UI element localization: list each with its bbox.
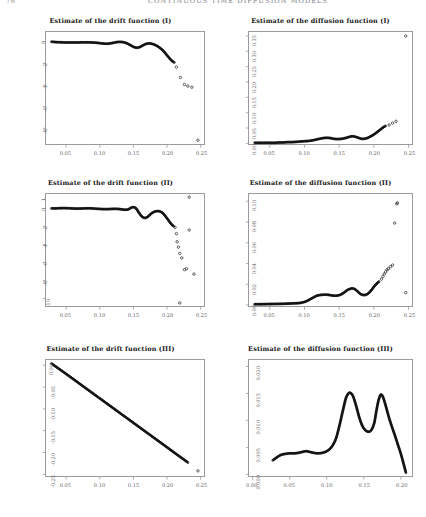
plot-area [45, 31, 205, 145]
outlier-series [197, 470, 199, 472]
y-tick-label: 0 [40, 208, 46, 211]
y-tick-label: 0 [40, 41, 46, 44]
x-tick-label: 0.10 [94, 482, 105, 488]
x-tick-label: 0.05 [60, 482, 71, 488]
panel-title: Estimate of the diffusion function (III) [218, 345, 423, 353]
running-header: 76 CONTINUOUS TIME DIFFUSION MODELS [0, 0, 426, 9]
panel-diffusion-1: Estimate of the diffusion function (I) 0… [218, 17, 423, 175]
y-tick-label: -4 [42, 244, 48, 249]
y-tick-label: 0.00 [251, 144, 257, 155]
y-tick-label: 0.005 [255, 448, 261, 463]
panel-diffusion-2: Estimate of the diffusion function (II) … [218, 179, 423, 337]
x-tick-label: 0.25 [404, 150, 415, 156]
y-tick-label: 0.20 [251, 82, 257, 93]
x-tick-label: 0.20 [369, 312, 380, 318]
panel-drift-1: Estimate of the drift function (I) 0.050… [8, 17, 213, 175]
x-tick-label: 0.15 [334, 150, 345, 156]
y-tick-label: 0.25 [251, 66, 257, 77]
outlier-series [388, 35, 407, 126]
outlier-series [380, 202, 407, 294]
page-folio: 76 [6, 0, 15, 5]
y-tick-label: 0.10 [251, 200, 257, 211]
y-tick-label: 0.08 [251, 221, 257, 232]
x-tick-label: 0.05 [60, 150, 71, 156]
y-tick-label: 0.35 [251, 35, 257, 46]
y-tick-label: 0.000 [255, 475, 261, 490]
plot-area [248, 193, 413, 307]
x-tick-label: 0.20 [162, 312, 173, 318]
y-tick-label: 0.04 [251, 263, 257, 274]
y-tick-label: 0.10 [251, 113, 257, 124]
y-tick-label: -0.15 [50, 431, 56, 444]
panel-title: Estimate of the drift function (I) [8, 17, 213, 25]
x-tick-label: 0.10 [94, 150, 105, 156]
plot-area [248, 359, 413, 477]
panel-drift-2: Estimate of the drift function (II) 0.05… [8, 179, 213, 337]
y-tick-label: -0.25 [50, 475, 56, 488]
y-tick-label: -6 [42, 262, 48, 267]
data-point-series [50, 41, 175, 64]
y-tick-label: 0.00 [251, 305, 257, 316]
panel-title: Estimate of the diffusion function (I) [218, 17, 423, 25]
outlier-series [188, 196, 190, 198]
panel-title: Estimate of the drift function (III) [8, 345, 213, 353]
y-tick-label: -2 [42, 63, 48, 68]
x-tick-label: 0.05 [263, 312, 274, 318]
panel-drift-3: Estimate of the drift function (III) 0.0… [8, 345, 213, 513]
x-tick-label: 0.05 [60, 312, 71, 318]
y-tick-label: -2 [42, 226, 48, 231]
panel-title: Estimate of the drift function (II) [8, 179, 213, 187]
outlier-series [174, 226, 195, 304]
x-tick-label: 0.05 [263, 150, 274, 156]
y-tick-label: -8 [42, 129, 48, 134]
x-tick-label: 0.25 [196, 312, 207, 318]
y-tick-label: 1 [40, 198, 46, 201]
y-tick-label: 0.30 [251, 51, 257, 62]
x-tick-label: 0.15 [128, 482, 139, 488]
x-tick-label: 0.20 [396, 482, 407, 488]
data-point-series [254, 281, 380, 306]
x-tick-label: 0.05 [284, 482, 295, 488]
x-tick-label: 0.15 [334, 312, 345, 318]
x-tick-label: 0.15 [128, 312, 139, 318]
x-tick-label: 0.25 [196, 482, 207, 488]
panel-title: Estimate of the diffusion function (II) [218, 179, 423, 187]
x-tick-label: 0.20 [369, 150, 380, 156]
y-tick-label: -0.05 [50, 386, 56, 399]
x-tick-label: 0.15 [128, 150, 139, 156]
x-tick-label: 0.20 [162, 150, 173, 156]
running-title: CONTINUOUS TIME DIFFUSION MODELS [148, 0, 328, 5]
y-tick-label: 0.05 [251, 128, 257, 139]
y-tick-label: -0.10 [50, 408, 56, 421]
x-tick-label: 0.25 [196, 150, 207, 156]
outlier-series [175, 66, 199, 142]
plot-area [45, 359, 205, 477]
y-tick-label: -8 [42, 281, 48, 286]
y-tick-label: -6 [42, 107, 48, 112]
x-tick-label: 0.15 [359, 482, 370, 488]
y-tick-label: 0.06 [251, 242, 257, 253]
plot-area [248, 31, 413, 145]
y-tick-label: -4 [42, 85, 48, 90]
y-tick-label: 0.02 [251, 284, 257, 295]
panel-diffusion-3: Estimate of the diffusion function (III)… [218, 345, 423, 513]
y-tick-label: 0.010 [255, 420, 261, 435]
x-tick-label: 0.25 [404, 312, 415, 318]
data-point-series [50, 363, 188, 464]
y-tick-label: -0.20 [50, 453, 56, 466]
panel-grid: Estimate of the drift function (I) 0.050… [0, 9, 426, 517]
data-point-series [272, 392, 407, 474]
data-point-series [50, 206, 174, 227]
x-tick-label: 0.10 [298, 150, 309, 156]
data-point-series [254, 125, 387, 144]
y-tick-label: -10 [45, 299, 51, 307]
y-tick-label: 0.015 [255, 393, 261, 408]
x-tick-label: 0.20 [162, 482, 173, 488]
x-tick-label: 0.10 [94, 312, 105, 318]
plot-area [45, 193, 205, 307]
x-tick-label: 0.10 [321, 482, 332, 488]
x-tick-label: 0.10 [298, 312, 309, 318]
figure-page: 76 CONTINUOUS TIME DIFFUSION MODELS Esti… [0, 0, 426, 517]
y-tick-label: 0.15 [251, 97, 257, 108]
y-tick-label: 0.00 [48, 364, 54, 375]
